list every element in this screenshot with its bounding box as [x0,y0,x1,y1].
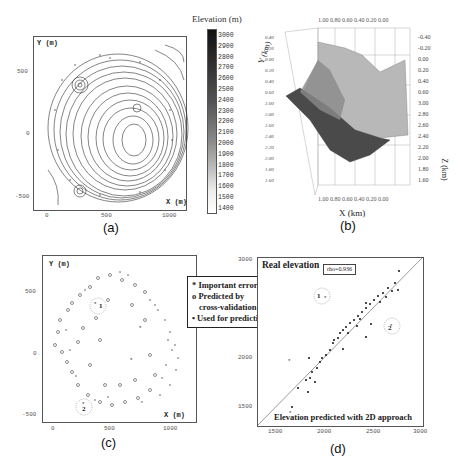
panel-d-xtick: 2500 [366,428,380,435]
panel-d-xtick: 1500 [268,428,282,435]
panel-d-xtitle: Elevation predicted with 2D approach [274,412,412,422]
panel-d-marker-1: 1 [317,292,321,300]
panel-d-ytick: 3000 [238,256,252,263]
panel-d-marker-2: 2 [388,324,392,332]
panel-d-rho-box: rho=0.936 [323,264,356,275]
panel-d-xtick: 2000 [317,428,331,435]
panel-d-ytitle: Real elevation [262,260,319,270]
svg-text:*: * [324,295,327,301]
scatter-real-vs-predicted: **** [0,0,458,469]
panel-d-xtick: 3000 [413,428,427,435]
panel-d-caption: (d) [330,441,346,456]
panel-d-ytick: 2000 [238,354,252,361]
svg-text:*: * [288,358,291,364]
panel-d-ytick: 1500 [238,403,252,410]
rho-value: rho=0.936 [327,266,352,272]
